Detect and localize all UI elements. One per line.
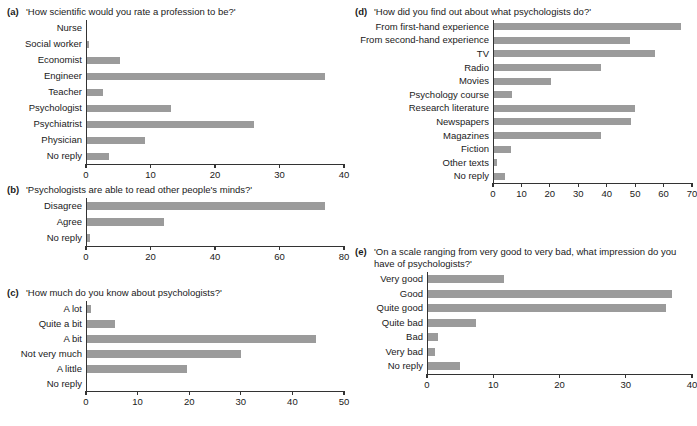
- bar-row: Quite good: [352, 301, 692, 316]
- bar: [87, 57, 120, 64]
- axis-tick-label: 30: [274, 169, 285, 180]
- axis-tick: [343, 391, 344, 395]
- category-label: Physician: [4, 135, 86, 145]
- axis-tick: [150, 246, 151, 250]
- bar-row: Disagree: [4, 198, 344, 214]
- plot-area: [427, 359, 692, 374]
- axis-tick-label: 0: [83, 251, 88, 262]
- axis-tick: [85, 164, 86, 168]
- panel-b-letter: (b): [4, 184, 26, 196]
- plot-area: [493, 102, 692, 116]
- plot-area: [86, 148, 344, 164]
- axis-tick-label: 0: [83, 169, 88, 180]
- plot-area: [427, 345, 692, 360]
- axis-tick-label: 10: [145, 169, 156, 180]
- axis-tick-label: 20: [554, 379, 565, 390]
- bar-row: Quite a bit: [4, 316, 344, 331]
- bar-row: Bad: [352, 330, 692, 345]
- bar-row: Psychiatrist: [4, 116, 344, 132]
- axis-tick-label: 10: [132, 396, 143, 407]
- bar: [87, 350, 241, 358]
- bar-rows: DisagreeAgreeNo reply: [4, 198, 344, 246]
- axis-tick: [343, 164, 344, 168]
- panel-a-letter: (a): [4, 6, 26, 18]
- category-label: Psychologist: [4, 103, 86, 113]
- bar-row: Fiction: [352, 142, 692, 156]
- axis-tick-label: 0: [424, 379, 429, 390]
- category-label: Teacher: [4, 87, 86, 97]
- axis-tick-label: 40: [287, 396, 298, 407]
- x-axis-row: 010203040506070: [352, 183, 692, 199]
- bar-row: Newspapers: [352, 115, 692, 129]
- category-label: Fiction: [352, 144, 493, 154]
- category-label: Magazines: [352, 131, 493, 141]
- x-axis: 010203040506070: [493, 183, 692, 199]
- axis-tick-label: 60: [658, 188, 669, 199]
- category-label: From second-hand experience: [352, 35, 493, 45]
- axis-tick-label: 30: [236, 396, 247, 407]
- axis-tick-label: 0: [490, 188, 495, 199]
- panel-d-letter: (d): [352, 6, 374, 18]
- axis-tick: [279, 164, 280, 168]
- bar-row: Good: [352, 287, 692, 302]
- axis-tick: [279, 246, 280, 250]
- bar-row: Economist: [4, 52, 344, 68]
- axis-line: [86, 391, 344, 392]
- plot-area: [86, 100, 344, 116]
- category-label: Bad: [352, 332, 427, 342]
- bar: [87, 202, 325, 210]
- bar-rows: NurseSocial workerEconomistEngineerTeach…: [4, 20, 344, 164]
- bar: [494, 159, 497, 166]
- panel-a-question: 'How scientific would you rate a profess…: [26, 6, 344, 18]
- bar-row: Physician: [4, 132, 344, 148]
- bar-row: Very good: [352, 272, 692, 287]
- axis-tick: [663, 183, 664, 187]
- axis-tick-label: 50: [339, 396, 350, 407]
- bar-chart-c: A lotQuite a bitA bitNot very muchA litt…: [4, 301, 344, 407]
- axis-tick: [426, 374, 427, 378]
- bar: [494, 64, 601, 71]
- panel-a-header: (a) 'How scientific would you rate a pro…: [4, 6, 344, 18]
- axis-tick: [635, 183, 636, 187]
- bar: [87, 365, 187, 373]
- x-axis: 01020304050: [86, 391, 344, 407]
- bar-rows: A lotQuite a bitA bitNot very muchA litt…: [4, 301, 344, 391]
- bar-row: A bit: [4, 331, 344, 346]
- bar: [494, 118, 631, 125]
- axis-tick: [625, 374, 626, 378]
- axis-tick-label: 40: [601, 188, 612, 199]
- category-label: A lot: [4, 304, 86, 314]
- bar: [494, 146, 511, 153]
- category-label: Quite good: [352, 303, 427, 313]
- category-label: Movies: [352, 76, 493, 86]
- axis-tick-label: 10: [516, 188, 527, 199]
- plot-area: [86, 214, 344, 230]
- bar: [87, 234, 90, 242]
- axis-tick-label: 80: [339, 251, 350, 262]
- plot-area: [86, 331, 344, 346]
- plot-area: [86, 36, 344, 52]
- category-label: A little: [4, 364, 86, 374]
- plot-area: [493, 156, 692, 170]
- bar: [494, 78, 551, 85]
- axis-tick: [559, 374, 560, 378]
- bar-chart-b: DisagreeAgreeNo reply020406080: [4, 198, 344, 262]
- panel-b-question: 'Psychologists are able to read other pe…: [26, 184, 344, 196]
- plot-area: [493, 129, 692, 143]
- plot-area: [86, 132, 344, 148]
- chart-panel-e: (e) 'On a scale ranging from very good t…: [352, 246, 692, 390]
- plot-area: [493, 61, 692, 75]
- axis-tick: [606, 183, 607, 187]
- plot-area: [493, 142, 692, 156]
- plot-area: [86, 376, 344, 391]
- plot-area: [86, 198, 344, 214]
- plot-area: [493, 115, 692, 129]
- bar: [87, 335, 316, 343]
- chart-panel-d: (d) 'How did you find out about what psy…: [352, 6, 692, 199]
- bar-row: Other texts: [352, 156, 692, 170]
- category-label: Quite a bit: [4, 319, 86, 329]
- axis-tick-label: 50: [630, 188, 641, 199]
- category-label: Newspapers: [352, 117, 493, 127]
- axis-tick: [150, 164, 151, 168]
- bar-row: No reply: [4, 148, 344, 164]
